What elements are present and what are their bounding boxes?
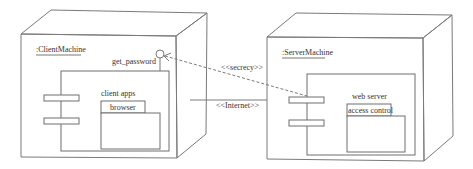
node-server-top-face — [267, 13, 452, 38]
component-client-apps[interactable]: client apps browser — [44, 71, 169, 151]
component-port-icon — [44, 118, 79, 124]
interface-lollipop-icon — [156, 50, 164, 58]
package-body — [347, 116, 405, 152]
component-server-label: web server — [352, 92, 387, 101]
interface-get-password[interactable]: get_password — [112, 50, 164, 71]
node-server-machine[interactable]: :ServerMachine web server access control — [267, 13, 453, 161]
node-client-top-face — [21, 10, 207, 36]
node-client-machine[interactable]: :ClientMachine get_password client apps … — [21, 10, 207, 158]
connection-internet[interactable]: <<Internet>> — [190, 100, 267, 110]
component-web-server[interactable]: web server access control — [289, 74, 415, 155]
component-port-icon — [289, 97, 324, 103]
secrecy-stereotype-label: <<secrecy>> — [221, 63, 264, 72]
node-client-side-face — [176, 13, 207, 158]
internet-stereotype-label: <<Internet>> — [216, 101, 259, 110]
node-server-label: :ServerMachine — [282, 48, 334, 57]
secrecy-dependency-line — [165, 56, 307, 96]
deployment-diagram: :ClientMachine get_password client apps … — [0, 0, 473, 169]
component-port-icon — [289, 120, 324, 126]
package-access-control-label: access control — [348, 106, 394, 115]
interface-label: get_password — [112, 57, 156, 66]
component-port-icon — [44, 95, 79, 101]
component-client-label: client apps — [101, 89, 135, 98]
package-browser-label: browser — [110, 103, 136, 112]
connection-secrecy[interactable]: <<secrecy>> — [164, 53, 307, 96]
package-body — [101, 113, 160, 149]
node-server-side-face — [423, 15, 453, 161]
node-client-label: :ClientMachine — [36, 45, 86, 54]
